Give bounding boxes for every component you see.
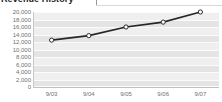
y-tick-label: 12,000: [0, 39, 31, 45]
series-revenue: [33, 12, 219, 87]
data-point-marker[interactable]: [161, 20, 165, 24]
x-tick-label: 9/04: [72, 90, 106, 99]
header-rule: [96, 5, 222, 6]
y-tick-label: 18,000: [0, 17, 31, 23]
y-tick-label: 16,000: [0, 24, 31, 30]
data-point-marker[interactable]: [50, 38, 54, 42]
y-tick-label: 10,000: [0, 47, 31, 53]
y-tick-label: 4,000: [0, 69, 31, 75]
x-tick-label: 9/03: [35, 90, 69, 99]
x-tick-label: 9/05: [109, 90, 143, 99]
x-tick-label: 9/06: [146, 90, 180, 99]
x-tick-label: 9/07: [183, 90, 217, 99]
data-point-marker[interactable]: [124, 25, 128, 29]
y-tick-label: 6,000: [0, 62, 31, 68]
y-tick-label: 14,000: [0, 32, 31, 38]
x-axis-labels: 9/039/049/059/069/07: [33, 90, 219, 101]
y-tick-label: 20,000: [0, 9, 31, 15]
y-tick-label: 2,000: [0, 77, 31, 83]
y-tick-label: 0: [0, 84, 31, 90]
revenue-history-chart-panel: Revenue History 20,00018,00016,00014,000…: [0, 0, 222, 102]
data-point-marker[interactable]: [87, 34, 91, 38]
data-point-marker[interactable]: [198, 10, 202, 14]
y-tick-label: 8,000: [0, 54, 31, 60]
y-axis-labels: 20,00018,00016,00014,00012,00010,0008,00…: [0, 0, 31, 102]
x-axis-line: [33, 87, 219, 88]
